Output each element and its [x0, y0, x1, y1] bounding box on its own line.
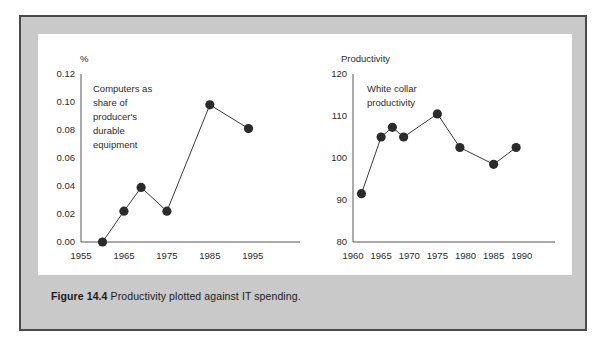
data-point-marker	[244, 124, 253, 133]
data-point-marker	[137, 183, 146, 192]
chart-annotation: White collarproductivity	[367, 83, 417, 108]
x-tick-label: 1970	[399, 250, 420, 261]
series-line	[361, 114, 516, 194]
data-point-marker	[455, 143, 464, 152]
x-tick-label: 1995	[242, 250, 263, 261]
x-tick-label: 1990	[511, 250, 532, 261]
axis-title-y: %	[80, 53, 89, 64]
chart-annotation: Computers asshare ofproducer'sdurableequ…	[93, 83, 152, 150]
data-point-marker	[512, 143, 521, 152]
annotation-line: producer's	[93, 111, 137, 122]
x-tick-label: 1975	[156, 250, 177, 261]
y-tick-label: 0.08	[57, 124, 76, 135]
y-tick-label: 120	[331, 68, 347, 79]
x-tick-label: 1980	[455, 250, 476, 261]
chart-white-collar-productivity: Productivity8090100110120196019651970197…	[305, 34, 572, 275]
y-tick-label: 0.10	[57, 96, 76, 107]
annotation-line: share of	[93, 97, 128, 108]
data-point-marker	[399, 132, 408, 141]
figure-caption: Figure 14.4 Productivity plotted against…	[51, 290, 551, 302]
x-tick-label: 1965	[113, 250, 134, 261]
x-tick-label: 1985	[199, 250, 220, 261]
annotation-line: durable	[93, 125, 125, 136]
y-tick-label: 0.00	[57, 236, 76, 247]
x-tick-label: 1985	[483, 250, 504, 261]
x-tick-label: 1955	[70, 250, 91, 261]
data-point-marker	[388, 123, 397, 132]
y-tick-label: 100	[331, 152, 347, 163]
data-point-marker	[119, 207, 128, 216]
annotation-line: Computers as	[93, 83, 152, 94]
data-point-marker	[205, 100, 214, 109]
y-tick-label: 0.04	[57, 180, 76, 191]
data-point-marker	[357, 189, 366, 198]
data-point-marker	[489, 160, 498, 169]
x-tick-label: 1975	[427, 250, 448, 261]
x-tick-label: 1965	[371, 250, 392, 261]
y-tick-label: 0.06	[57, 152, 76, 163]
annotation-line: productivity	[367, 97, 415, 108]
axis-title-y: Productivity	[341, 53, 390, 64]
data-point-marker	[377, 132, 386, 141]
data-point-marker	[433, 109, 442, 118]
caption-text: Productivity plotted against IT spending…	[111, 290, 301, 302]
annotation-line: equipment	[93, 139, 138, 150]
data-point-marker	[98, 237, 107, 246]
annotation-line: White collar	[367, 83, 417, 94]
figure-frame: %0.000.020.040.060.080.100.1219551965197…	[19, 15, 587, 331]
y-tick-label: 80	[336, 236, 347, 247]
caption-label: Figure 14.4	[51, 290, 108, 302]
y-tick-label: 90	[336, 194, 347, 205]
y-tick-label: 0.12	[57, 68, 76, 79]
chart-it-spending: %0.000.020.040.060.080.100.1219551965197…	[38, 34, 305, 275]
x-tick-label: 1960	[342, 250, 363, 261]
y-tick-label: 0.02	[57, 208, 76, 219]
figure-root: %0.000.020.040.060.080.100.1219551965197…	[0, 0, 607, 350]
chart-panel: %0.000.020.040.060.080.100.1219551965197…	[38, 34, 572, 275]
data-point-marker	[162, 207, 171, 216]
y-tick-label: 110	[332, 110, 347, 121]
